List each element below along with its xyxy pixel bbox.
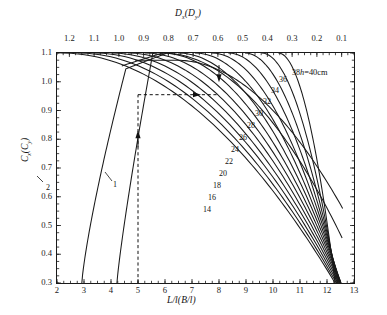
curve-22 [128, 53, 340, 283]
curve-label-26: 26 [239, 133, 247, 142]
curve-label-22: 22 [225, 157, 233, 166]
curve-label-2: 2 [46, 183, 50, 192]
h-value: =40cm [304, 68, 327, 77]
tick-label: 0.7 [28, 162, 52, 172]
tick-label: 0.4 [28, 248, 52, 258]
tick-label: 1.1 [28, 47, 52, 57]
tick-label: 0.8 [28, 133, 52, 143]
left-curves [82, 53, 167, 283]
leader-2 [37, 176, 43, 182]
curve-label-20: 20 [219, 169, 227, 178]
tick-label: 13 [338, 285, 370, 295]
curve-20 [111, 53, 339, 283]
curve-label-24: 24 [231, 145, 239, 154]
tick-label: 0.5 [28, 220, 52, 230]
curve-2 [82, 53, 167, 283]
curve-label-18: 18 [213, 181, 221, 190]
construction-lines [135, 65, 221, 283]
curve-1 [117, 53, 153, 283]
h-40cm-label: h=40cm [300, 68, 328, 77]
tick-label: 0.3 [28, 277, 52, 287]
curve-label-14: 14 [203, 205, 211, 214]
curve-label-32: 32 [263, 97, 271, 106]
tick-label: 0.6 [28, 191, 52, 201]
leader-1 [105, 172, 112, 181]
arrow-up-icon [135, 130, 140, 138]
tick-label: 0.1 [326, 33, 358, 43]
curve-label-28: 28 [247, 121, 255, 130]
curve-label-38: 38 [292, 68, 300, 77]
chart-canvas [0, 0, 387, 315]
curve-34 [228, 53, 339, 283]
tick-label: 1.0 [28, 76, 52, 86]
curve-label-34: 34 [271, 86, 279, 95]
curve-family [61, 53, 343, 283]
curve-label-1: 1 [113, 180, 117, 189]
chart-figure: Dx(Dy) Cx(Cy) L/l(B/l) 1.21.11.00.90.80.… [0, 0, 387, 315]
tick-label: 0.9 [28, 105, 52, 115]
curve-18 [94, 53, 337, 283]
curve-36 [245, 53, 338, 283]
curve-label-16: 16 [208, 193, 216, 202]
curve-label-36: 36 [279, 75, 287, 84]
curve-24 [145, 53, 341, 283]
curve-label-30: 30 [255, 109, 263, 118]
